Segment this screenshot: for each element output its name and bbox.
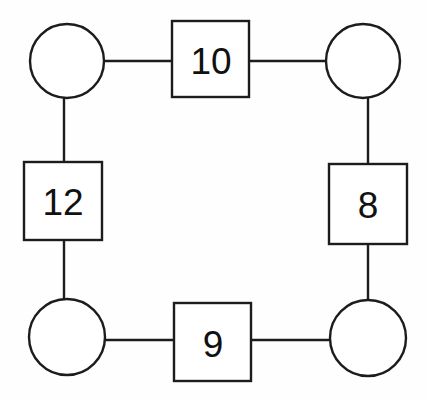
square-node-right[interactable]: 8 [329, 164, 407, 244]
circle-node-bottom-left[interactable] [29, 299, 105, 375]
square-node-left[interactable]: 12 [24, 162, 102, 240]
circle-node-top-left[interactable] [30, 24, 104, 98]
square-node-top[interactable]: 10 [172, 21, 249, 97]
square-label-bottom: 9 [203, 324, 224, 365]
square-node-bottom[interactable]: 9 [174, 303, 251, 381]
diagram-canvas: 10 12 8 9 [0, 0, 427, 400]
square-label-top: 10 [190, 41, 231, 82]
edge-group [64, 61, 368, 340]
square-label-right: 8 [358, 185, 379, 226]
ring-diagram: 10 12 8 9 [0, 0, 427, 400]
circle-node-bottom-right[interactable] [330, 300, 406, 376]
square-label-left: 12 [42, 182, 83, 223]
circle-node-top-right[interactable] [326, 24, 400, 98]
